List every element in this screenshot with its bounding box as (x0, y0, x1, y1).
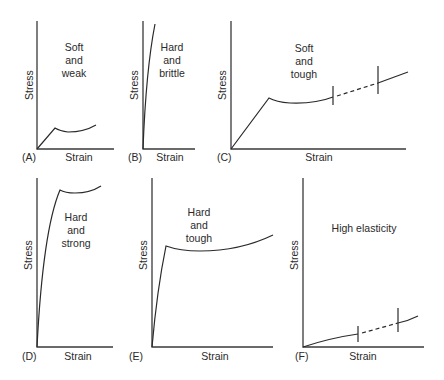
panel-e-y-label: Stress (137, 240, 149, 270)
panel-e-annotation-2: and (190, 219, 208, 231)
panel-f-letter: (F) (295, 350, 308, 362)
panel-d-letter: (D) (22, 350, 37, 362)
panel-a-annotation-2: and (65, 54, 83, 66)
panel-b-y-label: Stress (128, 70, 140, 100)
panel-c-curve-solid-1 (231, 97, 333, 149)
panel-c-x-label: Strain (305, 151, 333, 163)
panel-b-x-label: Strain (156, 151, 184, 163)
panel-c-curve-dashed (337, 83, 378, 96)
panel-e-axes (152, 178, 273, 347)
panel-e-letter: (E) (129, 350, 143, 362)
panel-b: Stress (B) Strain Hard and brittle (128, 21, 195, 163)
panel-c-axes (231, 21, 406, 149)
panel-c-y-label: Stress (216, 70, 228, 100)
panel-c-annotation-3: tough (291, 68, 317, 80)
panel-a-x-label: Strain (65, 151, 93, 163)
panel-a-annotation-3: weak (61, 67, 87, 79)
panel-e-annotation-3: tough (186, 232, 212, 244)
panel-c-annotation-1: Soft (295, 42, 314, 54)
panel-f: Stress (F) Strain High elasticity (288, 178, 424, 362)
panel-a-y-label: Stress (23, 70, 35, 100)
panel-a-annotation-1: Soft (65, 41, 84, 53)
panel-a-letter: (A) (22, 151, 36, 163)
panel-d-axes (37, 178, 113, 347)
panel-c: Stress (C) Strain Soft and tough (216, 21, 408, 163)
panel-f-curve-dashed (362, 323, 398, 333)
panel-a: Stress (A) Strain Soft and weak (22, 21, 114, 163)
panel-b-letter: (B) (128, 151, 142, 163)
panel-e-curve (152, 235, 273, 347)
panel-d-x-label: Strain (64, 350, 92, 362)
panel-f-x-label: Strain (349, 350, 377, 362)
panel-c-annotation-2: and (295, 55, 313, 67)
panel-f-y-label: Stress (288, 240, 300, 270)
panel-f-curve-solid-1 (303, 334, 358, 347)
panel-d-annotation-2: and (67, 224, 85, 236)
panel-b-annotation-2: and (163, 54, 181, 66)
panel-b-annotation-3: brittle (159, 67, 185, 79)
panel-e: Stress (E) Strain Hard and tough (129, 178, 273, 362)
panel-b-annotation-1: Hard (161, 41, 184, 53)
panel-d-annotation-3: strong (61, 237, 90, 249)
panel-b-curve (143, 24, 155, 149)
panel-d: Stress (D) Strain Hard and strong (22, 178, 113, 362)
panel-f-annotation-1: High elasticity (332, 222, 398, 234)
panel-e-x-label: Strain (201, 350, 229, 362)
panel-d-y-label: Stress (22, 240, 34, 270)
panel-e-annotation-1: Hard (188, 206, 211, 218)
panel-c-curve-solid-2 (378, 72, 408, 83)
panel-f-axes (303, 178, 424, 347)
panel-f-curve-solid-2 (398, 316, 418, 323)
panel-d-annotation-1: Hard (65, 211, 88, 223)
panel-a-curve (37, 125, 96, 149)
stress-strain-figure: Stress (A) Strain Soft and weak Stress (… (0, 0, 444, 380)
panel-c-letter: (C) (217, 151, 232, 163)
